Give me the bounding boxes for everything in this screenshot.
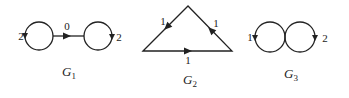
g3-left-loop	[255, 22, 285, 52]
graph-g3: 1 2 G3	[247, 22, 328, 83]
graph-g2: 1 1 1 G2	[143, 6, 232, 89]
g1-right-loop-label: 2	[116, 31, 122, 43]
g1-edge-arrow-icon	[63, 33, 71, 40]
g2-bottom-edge-label: 1	[185, 54, 191, 66]
g3-label: G3	[284, 66, 298, 83]
graph-g1: 2 0 2 G1	[18, 20, 122, 81]
g3-left-loop-arrow-icon	[252, 35, 258, 41]
g1-left-loop-label: 2	[18, 30, 24, 42]
g3-right-loop-arrow-icon	[312, 35, 318, 41]
g1-left-loop	[25, 22, 53, 50]
g2-label: G2	[183, 72, 197, 89]
g3-right-loop-label: 2	[322, 32, 328, 44]
g1-right-loop-arrow-icon	[109, 34, 115, 40]
g1-label: G1	[62, 64, 76, 81]
g2-left-edge-label: 1	[160, 15, 166, 27]
graph-diagram: 2 0 2 G1 1 1 1	[0, 0, 349, 98]
g1-right-loop	[84, 22, 112, 50]
g2-right-edge-label: 1	[213, 17, 219, 29]
g3-right-loop	[285, 22, 315, 52]
g1-edge-label: 0	[64, 20, 70, 32]
g3-left-loop-label: 1	[247, 31, 253, 43]
